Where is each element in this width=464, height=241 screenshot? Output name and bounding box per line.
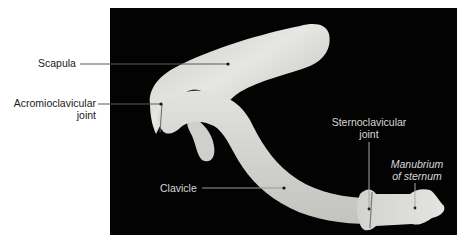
label-manubrium-line2: of sternum <box>384 170 450 182</box>
label-scapula: Scapula <box>38 57 76 69</box>
label-manubrium-of-sternum: Manubrium of sternum <box>384 158 450 182</box>
label-clavicle: Clavicle <box>160 182 197 194</box>
label-sternoclavicular-line2: joint <box>327 128 411 140</box>
label-manubrium-line1: Manubrium <box>384 158 450 170</box>
anatomy-figure: Scapula Acromioclavicular joint Clavicle… <box>0 0 464 241</box>
label-acromioclavicular-line1: Acromioclavicular <box>10 97 96 109</box>
label-sternoclavicular-joint: Sternoclavicular joint <box>327 116 411 140</box>
label-acromioclavicular-joint: Acromioclavicular joint <box>10 97 96 121</box>
clavicle-bone <box>158 91 371 224</box>
label-acromioclavicular-line2: joint <box>10 109 96 121</box>
label-sternoclavicular-line1: Sternoclavicular <box>327 116 411 128</box>
